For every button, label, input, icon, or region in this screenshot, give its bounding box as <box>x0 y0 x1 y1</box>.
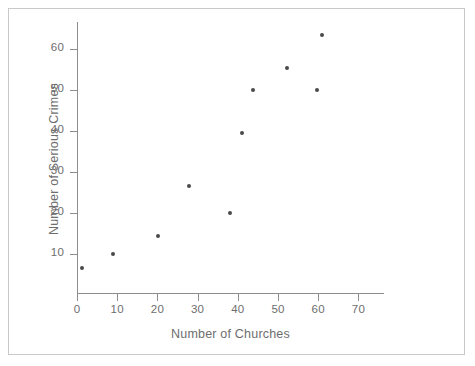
y-axis-tick <box>70 49 77 50</box>
x-axis-tick <box>77 294 78 301</box>
data-point <box>315 88 319 92</box>
data-point <box>285 66 289 70</box>
x-axis-tick-label: 20 <box>137 303 177 315</box>
data-point <box>187 184 191 188</box>
scatter-plot-figure: 102030405060010203040506070 Number of Ch… <box>0 0 475 366</box>
y-axis-tick <box>70 213 77 214</box>
x-axis-tick <box>238 294 239 301</box>
x-axis-tick <box>198 294 199 301</box>
x-axis-tick-label: 40 <box>218 303 258 315</box>
y-axis-title: Number of Serious Crimes <box>47 29 61 289</box>
x-axis-tick <box>278 294 279 301</box>
data-point <box>111 252 115 256</box>
x-axis-tick <box>318 294 319 301</box>
data-point <box>320 33 324 37</box>
y-axis-tick <box>70 90 77 91</box>
x-axis-tick-label: 50 <box>258 303 298 315</box>
data-point <box>240 131 244 135</box>
x-axis-tick <box>117 294 118 301</box>
data-point <box>251 88 255 92</box>
y-axis-tick <box>70 172 77 173</box>
x-axis-tick-label: 0 <box>57 303 97 315</box>
x-axis-tick-label: 30 <box>178 303 218 315</box>
y-axis-tick <box>70 131 77 132</box>
x-axis-tick-label: 10 <box>97 303 137 315</box>
plot-area: 102030405060010203040506070 Number of Ch… <box>0 0 475 366</box>
x-axis-line <box>77 293 384 294</box>
y-axis-line <box>77 22 78 294</box>
x-axis-tick-label: 60 <box>298 303 338 315</box>
x-axis-tick-label: 70 <box>338 303 378 315</box>
x-axis-title: Number of Churches <box>77 327 384 341</box>
data-point <box>80 266 84 270</box>
x-axis-tick <box>157 294 158 301</box>
data-point <box>156 234 160 238</box>
x-axis-tick <box>358 294 359 301</box>
data-point <box>228 211 232 215</box>
y-axis-tick <box>70 254 77 255</box>
